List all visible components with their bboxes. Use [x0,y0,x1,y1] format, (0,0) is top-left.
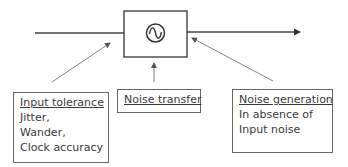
input-tolerance-box: Input tolerance Jitter, Wander, Clock ac… [13,92,109,163]
noise-transfer-title: Noise transfer [124,92,195,107]
input-tolerance-line: Jitter, [20,110,103,125]
noise-transfer-box: Noise transfer [117,89,201,113]
input-tolerance-line: Wander, [20,125,103,140]
input-tolerance-arrow [52,43,110,82]
noise-generation-arrow [192,38,273,81]
noise-generation-box: Noise generation In absence of Input noi… [232,89,333,153]
input-tolerance-title: Input tolerance [20,95,103,110]
noise-generation-line: Input noise [239,122,327,137]
noise-generation-title: Noise generation [239,92,327,107]
input-tolerance-line: Clock accuracy [20,140,103,155]
noise-generation-line: In absence of [239,107,327,122]
